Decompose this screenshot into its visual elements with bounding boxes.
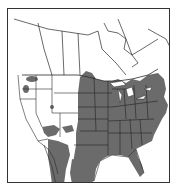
map-title: Range map of North America (0, 0, 1, 1)
range-map (8, 9, 170, 183)
map-frame (7, 8, 170, 183)
map-legend-shaded: Distribution range (0, 0, 1, 1)
